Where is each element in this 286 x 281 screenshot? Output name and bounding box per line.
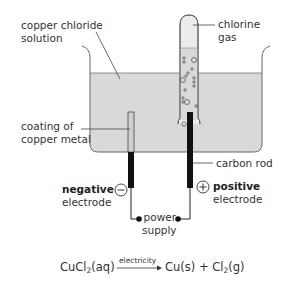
product-chlorine-state: (g) — [228, 260, 244, 274]
reactant-formula: CuCl — [60, 260, 87, 274]
label-solution: copper chloride solution — [21, 19, 103, 45]
power-supply-terminal-negative — [136, 216, 142, 222]
negative-word: negative — [62, 183, 114, 196]
positive-electrode-word: electrode — [213, 193, 262, 206]
supply-word: supply — [142, 224, 177, 237]
reaction-condition: electricity — [119, 256, 156, 265]
negative-electrode-word: electrode — [62, 196, 114, 209]
reactant: CuCl2(aq) — [60, 260, 115, 275]
plus-sign: + — [199, 260, 209, 274]
label-solution-line1: copper chloride — [21, 19, 103, 32]
power-word: power — [143, 211, 177, 224]
label-coating-line2: copper metal — [21, 133, 91, 146]
product-chlorine: Cl — [212, 260, 223, 274]
products: Cu(s) + Cl2(g) — [165, 260, 245, 275]
label-copper-coating: coating of copper metal — [21, 120, 91, 146]
label-positive-electrode: positive electrode — [213, 180, 262, 206]
label-solution-line2: solution — [21, 32, 103, 45]
product-copper: Cu(s) — [165, 260, 195, 274]
label-chlorine-gas: chlorine gas — [218, 18, 260, 44]
reactant-state: (aq) — [91, 260, 114, 274]
label-negative-electrode: negative electrode — [62, 183, 114, 209]
negative-electrode — [128, 152, 134, 188]
positive-word: positive — [213, 180, 262, 193]
copper-chloride-solution — [90, 73, 262, 152]
label-coating-line1: coating of — [21, 120, 91, 133]
label-gas-line1: chlorine — [218, 18, 260, 31]
negative-electrode-submerged — [128, 112, 134, 152]
carbon-rod — [187, 112, 193, 188]
label-gas-line2: gas — [218, 31, 260, 44]
label-power-supply: power supply — [143, 211, 177, 237]
label-carbon-rod: carbon rod — [216, 157, 273, 170]
wire — [131, 188, 138, 219]
